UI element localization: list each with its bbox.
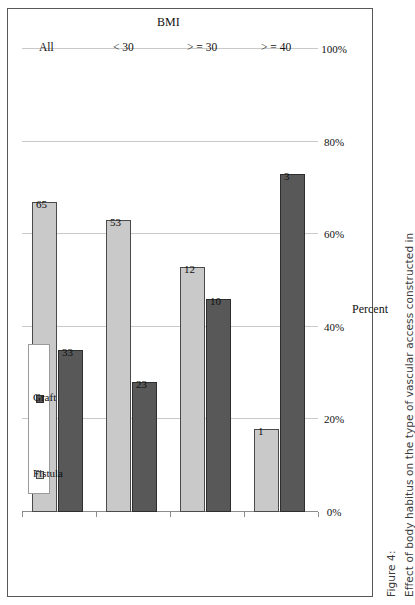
category-tick-label-0: All [39, 41, 54, 53]
bar-label-fistula-2: 12 [184, 263, 195, 275]
bar-group-3: 13 [244, 49, 318, 512]
bar-label-graft-3: 3 [284, 170, 290, 182]
category-tick-label-2: > = 30 [187, 41, 217, 53]
legend-label-fistula: Fistula [33, 467, 63, 479]
value-tick-label-60: 60% [317, 228, 351, 240]
bar-graft-3 [280, 174, 305, 512]
value-tick-label-0: 0% [317, 506, 351, 518]
value-tick-label-80: 80% [317, 136, 351, 148]
bar-label-fistula-1: 53 [110, 216, 121, 228]
bar-label-fistula-0: 65 [36, 198, 47, 210]
category-tick-1 [96, 512, 97, 517]
category-tick-label-3: > = 40 [261, 41, 291, 53]
bar-graft-1 [132, 382, 157, 512]
chart-frame: 65335323121013 0%20%40%60%80%100% All< 3… [7, 8, 373, 597]
value-tick-label-40: 40% [317, 321, 351, 333]
category-tick-label-1: < 30 [113, 41, 134, 53]
figure-caption-text: Effect of body habitus on the type of va… [403, 233, 415, 597]
value-tick-label-20: 20% [317, 413, 351, 425]
chart-legend: FistulaGraft [28, 344, 50, 494]
legend-label-graft: Graft [33, 391, 56, 403]
bar-graft-0 [58, 350, 83, 512]
bar-fistula-1 [106, 220, 131, 512]
bar-label-fistula-3: 1 [258, 425, 264, 437]
bar-fistula-2 [180, 267, 205, 512]
bar-group-1: 5323 [96, 49, 170, 512]
bar-graft-2 [206, 299, 231, 512]
plot-area: 65335323121013 [22, 49, 318, 512]
category-axis-title: BMI [157, 15, 180, 30]
category-tick-2 [170, 512, 171, 517]
chart-rotated-canvas: 65335323121013 0%20%40%60%80%100% All< 3… [8, 9, 374, 598]
bar-label-graft-0: 33 [62, 346, 73, 358]
bar-label-graft-1: 23 [136, 378, 147, 390]
figure-number-label: Figure 4: [385, 550, 397, 597]
bar-group-2: 1210 [170, 49, 244, 512]
bar-fistula-3 [254, 429, 279, 512]
value-tick-label-100: 100% [317, 43, 351, 55]
category-tick-3 [244, 512, 245, 517]
figure-caption-block: Figure 4: Effect of body habitus on the … [377, 0, 414, 605]
category-tick-0 [22, 512, 23, 517]
bar-label-graft-2: 10 [210, 295, 221, 307]
